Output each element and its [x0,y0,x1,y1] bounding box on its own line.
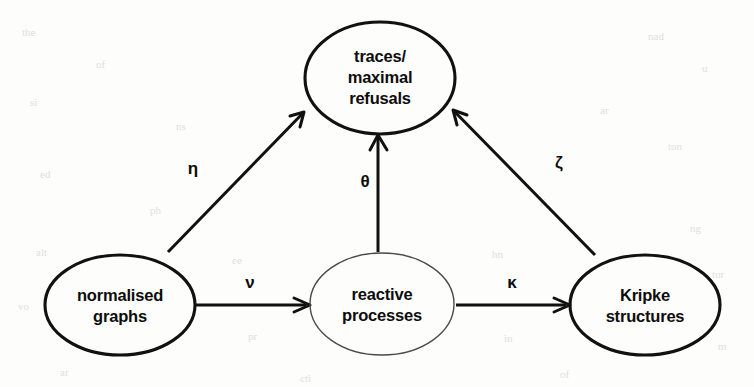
edge-nu: ν [196,273,310,312]
edge-label-eta: η [188,159,198,178]
edge-zeta: ζ [453,110,595,255]
node-normalised-line-1: normalised [77,286,163,304]
edge-label-nu: ν [245,273,254,292]
edge-theta: θ [360,135,387,252]
node-normalised: normalised graphs [45,255,195,355]
edge-eta-line [168,112,304,252]
node-traces-line-2: maximal [348,68,413,86]
node-traces-line-3: refusals [349,89,411,107]
edge-label-theta: θ [360,172,369,191]
edge-kappa: κ [456,273,570,312]
node-kripke-ellipse [570,255,720,355]
node-kripke-line-2: structures [606,307,685,325]
edge-zeta-line [453,110,595,255]
node-traces: traces/ maximal refusals [305,22,455,134]
node-normalised-line-2: graphs [93,307,147,325]
node-normalised-ellipse [45,255,195,355]
node-reactive-line-1: reactive [352,285,413,303]
node-kripke: Kripke structures [570,255,720,355]
node-reactive-line-2: processes [342,306,422,324]
node-traces-line-1: traces/ [354,47,406,65]
edge-label-kappa: κ [507,273,517,292]
diagram-canvas: theofnadusinsartonedphlingalteehnturvopr… [0,0,754,387]
node-kripke-line-1: Kripke [620,286,670,304]
diagram-figure: η θ ζ ν κ traces/ maximal refusals [0,0,754,387]
edge-eta: η [168,112,304,252]
node-reactive: reactive processes [310,253,454,355]
edge-label-zeta: ζ [555,153,563,172]
node-reactive-ellipse [310,253,454,355]
